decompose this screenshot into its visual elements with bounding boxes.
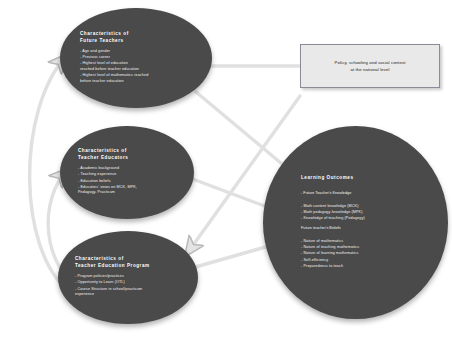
- learning-outcomes-beliefs-bullets: Nature of mathematics Nature of teaching…: [301, 239, 359, 270]
- node-future-teachers-title: Characteristics of Future Teachers: [80, 31, 129, 45]
- list-item: Academic background: [78, 166, 137, 172]
- list-item: Highest level of education reached befor…: [80, 61, 148, 72]
- list-item: Math content knowledge (MCK): [301, 204, 365, 210]
- list-item: Knowledge of teaching (Pedagogy): [301, 216, 365, 222]
- list-item: Preparedness to teach: [301, 264, 359, 270]
- list-item: Nature of mathematics: [301, 239, 359, 245]
- node-teacher-education-program-title: Characteristics of Teacher Education Pro…: [75, 256, 150, 270]
- node-learning-outcomes[interactable]: Learning Outcomes - Future Teacher's Kno…: [263, 126, 448, 319]
- list-item: Course Structure in school/practicum exp…: [75, 287, 142, 298]
- node-teacher-education-program[interactable]: Characteristics of Teacher Education Pro…: [58, 231, 198, 324]
- list-item: Highest level of mathematics reached bef…: [80, 73, 148, 84]
- node-teacher-education-program-bullets: Program policies/practices Opportunity t…: [75, 274, 142, 298]
- node-policy-context-text: Policy, schooling and social context at …: [335, 59, 406, 73]
- list-item: Nature of teaching mathematics: [301, 245, 359, 251]
- list-item: Educators' views on MCK, MPK, Pedagogy, …: [78, 185, 137, 196]
- node-policy-context[interactable]: Policy, schooling and social context at …: [300, 44, 440, 88]
- list-item: Opportunity to Learn (OTL): [75, 280, 142, 286]
- learning-outcomes-knowledge-bullets: Math content knowledge (MCK) Math pedago…: [301, 204, 365, 223]
- list-item: Math pedagogy knowledge (MPK): [301, 210, 365, 216]
- learning-outcomes-beliefs-heading: Future teacher's Beliefs: [301, 226, 341, 232]
- list-item: Teaching experience: [78, 172, 137, 178]
- list-item: Nature of learning mathematics: [301, 251, 359, 257]
- list-item: Education beliefs: [78, 179, 137, 185]
- learning-outcomes-knowledge-heading: - Future Teacher's Knowledge: [301, 191, 351, 197]
- list-item: Previous career: [80, 55, 148, 61]
- node-future-teachers-bullets: Age and gender Previous career Highest l…: [80, 49, 148, 85]
- list-item: Program policies/practices: [75, 274, 142, 280]
- node-future-teachers[interactable]: Characteristics of Future Teachers Age a…: [60, 8, 212, 108]
- node-learning-outcomes-title: Learning Outcomes: [301, 175, 354, 182]
- diagram-canvas: Characteristics of Future Teachers Age a…: [0, 0, 452, 339]
- node-teacher-educators-title: Characteristics of Teacher Educators: [78, 148, 128, 162]
- node-teacher-educators[interactable]: Characteristics of Teacher Educators Aca…: [60, 126, 194, 219]
- list-item: Age and gender: [80, 49, 148, 55]
- list-item: Self-efficiency: [301, 258, 359, 264]
- node-teacher-educators-bullets: Academic background Teaching experience …: [78, 166, 137, 197]
